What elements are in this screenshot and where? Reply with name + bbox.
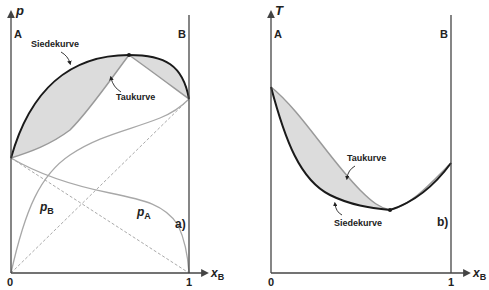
dew-curve-label-b: Taukurve [347,153,386,163]
boiling-pointer-arrow-a [61,52,70,63]
x-tick-1-b: 1 [448,276,454,288]
panel-label-b: b) [437,215,448,229]
component-A-label-b: A [274,28,282,40]
panel-a-pressure-diagram: p A B Siedekurve Taukurve pB pA a) 0 1 x… [7,3,225,288]
x-tick-1-a: 1 [186,276,192,288]
panel-b-temperature-diagram: T A B Taukurve Siedekurve b) 0 1 xB [268,3,487,288]
y-axis-label-b: T [275,3,284,18]
boiling-pointer-arrow-b [335,204,342,215]
two-phase-region-b-right [390,163,451,210]
y-axis-label-a: p [15,3,24,18]
x-axis-label-b: xB [472,266,487,282]
component-A-label-a: A [14,28,22,40]
partial-pressure-A-label: pA [136,205,151,221]
ideal-pA-line [11,158,189,273]
component-B-label-a: B [178,28,186,40]
azeotrope-point-b [388,208,392,212]
dew-curve-label-a: Taukurve [116,92,155,102]
phase-diagrams: p A B Siedekurve Taukurve pB pA a) 0 1 x… [0,0,489,290]
boiling-curve-label-a: Siedekurve [31,39,79,49]
two-phase-region-b [271,87,390,210]
dew-pointer-arrow-a [111,78,121,92]
component-B-label-b: B [440,28,448,40]
x-axis-label-a: xB [210,266,225,282]
boiling-curve-label-b: Siedekurve [334,218,382,228]
x-tick-0-b: 0 [268,276,274,288]
panel-label-a: a) [175,217,186,231]
x-tick-0-a: 0 [7,276,13,288]
partial-pressure-B-label: pB [39,200,54,216]
azeotrope-point-a [127,53,131,57]
